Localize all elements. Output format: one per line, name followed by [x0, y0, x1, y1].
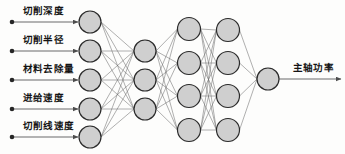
neuron-hidden-layer-3-2 [217, 85, 240, 108]
input-terminal-dot-2 [10, 78, 15, 83]
input-label-4: 切削线速度 [23, 122, 74, 132]
edge-input-layer-4-to-hidden-layer-1-2 [101, 109, 134, 137]
neuron-hidden-layer-3-3 [217, 119, 240, 142]
edge-hidden-layer-1-1-to-hidden-layer-2-3 [156, 80, 178, 130]
neuron-input-layer-4 [79, 126, 101, 148]
input-terminal-dot-4 [10, 135, 15, 140]
neuron-output-layer-0 [257, 68, 279, 90]
neural-network-diagram: 切削深度切削半径材料去除量进给速度切削线速度主轴功率 [0, 0, 345, 154]
edge-hidden-layer-2-0-to-hidden-layer-3-0 [201, 29, 217, 30]
edge-hidden-layer-1-0-to-hidden-layer-2-2 [156, 51, 178, 96]
neuron-hidden-layer-2-3 [178, 119, 201, 142]
input-terminal-dot-0 [10, 20, 15, 25]
neuron-hidden-layer-2-0 [178, 18, 201, 41]
neuron-hidden-layer-1-0 [134, 40, 156, 62]
edge-hidden-layer-1-0-to-hidden-layer-2-3 [156, 51, 178, 130]
input-label-3: 进给速度 [23, 94, 64, 104]
neuron-nodes [79, 11, 279, 148]
edge-input-layer-4-to-hidden-layer-1-1 [101, 80, 134, 137]
edge-hidden-layer-3-2-to-output-layer-0 [240, 79, 258, 96]
edge-hidden-layer-3-0-to-output-layer-0 [240, 30, 258, 79]
edge-input-layer-0-to-hidden-layer-1-0 [101, 22, 134, 51]
neuron-hidden-layer-2-1 [178, 52, 201, 75]
input-terminal-dot-3 [10, 107, 15, 112]
edge-input-layer-4-to-hidden-layer-1-0 [101, 51, 134, 137]
edge-hidden-layer-1-2-to-hidden-layer-2-3 [156, 109, 178, 130]
neuron-input-layer-1 [79, 40, 101, 62]
neuron-hidden-layer-1-2 [134, 98, 156, 120]
neuron-input-layer-0 [79, 11, 101, 33]
edge-hidden-layer-1-2-to-hidden-layer-2-0 [156, 29, 178, 109]
neuron-hidden-layer-3-0 [217, 19, 240, 42]
edge-hidden-layer-1-0-to-hidden-layer-2-1 [156, 51, 178, 63]
neuron-hidden-layer-1-1 [134, 69, 156, 91]
edge-hidden-layer-1-1-to-hidden-layer-2-1 [156, 63, 178, 80]
input-label-1: 切削半径 [23, 36, 64, 46]
neuron-input-layer-3 [79, 98, 101, 120]
neuron-input-layer-2 [79, 69, 101, 91]
neuron-hidden-layer-3-1 [217, 52, 240, 75]
edge-hidden-layer-1-1-to-hidden-layer-2-0 [156, 29, 178, 80]
neuron-hidden-layer-2-2 [178, 85, 201, 108]
output-label-0: 主轴功率 [293, 64, 334, 74]
input-label-0: 切削深度 [23, 7, 64, 17]
input-label-2: 材料去除量 [23, 65, 74, 75]
input-terminal-dot-1 [10, 49, 15, 54]
edge-hidden-layer-3-3-to-output-layer-0 [240, 79, 258, 130]
